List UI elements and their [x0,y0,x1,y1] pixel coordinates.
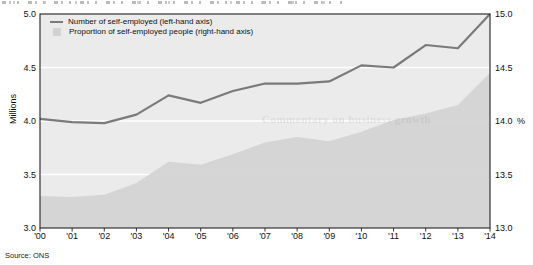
x-axis-tick-label: '09 [314,231,344,242]
x-axis-tick-label: '10 [346,231,376,242]
x-axis-tick-label: '05 [186,231,216,242]
x-axis-tick-label: '08 [282,231,312,242]
area-series-swatch [53,28,61,36]
x-axis-tick-label: '07 [250,231,280,242]
x-axis-tick-label: '01 [57,231,87,242]
x-axis-tick-label: '13 [443,231,473,242]
x-axis-tick-label: '11 [379,231,409,242]
x-axis-tick-label: '02 [89,231,119,242]
left-axis-tick-label: 4.0 [10,116,36,127]
source-note: Source: ONS [5,251,49,260]
x-axis-tick-label: '04 [154,231,184,242]
right-axis-unit: % [517,116,525,126]
legend-label-line: Number of self-employed (left-hand axis) [68,17,213,27]
legend-item-area: Proportion of self-employed people (righ… [50,27,253,37]
x-axis-tick-label: '03 [121,231,151,242]
line-series-swatch [50,21,63,23]
legend-item-line: Number of self-employed (left-hand axis) [50,17,253,27]
left-axis-tick-label: 5.0 [10,9,36,20]
legend: Number of self-employed (left-hand axis)… [50,17,253,37]
x-axis-tick-label: '14 [475,231,505,242]
x-axis-tick-label: '06 [218,231,248,242]
right-axis-tick-label: 13.5 [495,170,525,181]
plot-area: Commentary on business growth Number of … [40,14,490,228]
left-axis-tick-label: 3.5 [10,170,36,181]
cropped-title-fragment [2,1,342,4]
chart-figure: Millions Commentary on business growth N… [0,0,533,265]
chart-canvas [40,14,492,234]
right-axis-tick-label: 15.0 [495,9,525,20]
legend-label-area: Proportion of self-employed people (righ… [69,27,253,37]
right-axis-tick-label: 14.5 [495,63,525,74]
x-axis-tick-label: '12 [411,231,441,242]
x-axis-tick-label: '00 [25,231,55,242]
left-axis-tick-label: 4.5 [10,63,36,74]
